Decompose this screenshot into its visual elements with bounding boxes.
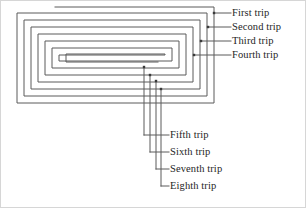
- leader-dot-fourth: [193, 54, 195, 56]
- leader-dot-sixth: [149, 74, 151, 76]
- label-first-trip: First trip: [232, 7, 269, 18]
- spiral-path-group: [17, 7, 214, 103]
- spiral-polyline: [17, 7, 214, 103]
- leader-dot-second: [207, 26, 209, 28]
- leader-dot-seventh: [155, 80, 157, 82]
- label-second-trip: Second trip: [232, 21, 281, 32]
- leader-dot-first: [213, 12, 215, 14]
- leader-dot-fifth: [143, 66, 145, 68]
- leader-dot-eighth: [160, 88, 162, 90]
- label-third-trip: Third trip: [232, 35, 274, 46]
- leader-dot-third: [200, 40, 202, 42]
- label-fifth-trip: Fifth trip: [170, 129, 209, 140]
- leader-lines-group: [144, 13, 231, 186]
- label-sixth-trip: Sixth trip: [170, 146, 210, 157]
- spiral-trips-figure: First trip Second trip Third trip Fourth…: [0, 0, 306, 208]
- label-fourth-trip: Fourth trip: [232, 49, 278, 60]
- label-eighth-trip: Eighth trip: [170, 180, 216, 191]
- label-seventh-trip: Seventh trip: [170, 163, 222, 174]
